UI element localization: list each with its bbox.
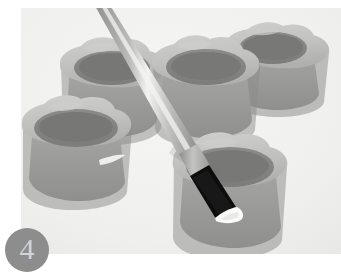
photo-artwork <box>21 8 341 254</box>
step-number-label: 4 <box>20 234 35 264</box>
instruction-photo <box>21 8 341 254</box>
pot-bottom-left <box>22 95 133 210</box>
step-number-badge: 4 <box>5 228 49 272</box>
